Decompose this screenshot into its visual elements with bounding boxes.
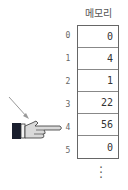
memory-cell: 4 [78, 48, 118, 70]
pointing-hand-icon [12, 120, 64, 142]
cell-index: 2 [64, 77, 72, 86]
cell-index: 5 [64, 146, 72, 155]
cell-index: 0 [64, 31, 72, 40]
memory-cell: 0 [78, 136, 118, 158]
cell-index: 3 [64, 100, 72, 109]
cell-index: 1 [64, 54, 72, 63]
memory-cell: 0 [78, 26, 118, 48]
continuation-dots: ··· [98, 165, 104, 180]
memory-table: 0 4 1 22 56 0 [77, 25, 119, 159]
memory-cell: 22 [78, 92, 118, 114]
cell-index: 4 [64, 123, 72, 132]
memory-cell: 1 [78, 70, 118, 92]
memory-title: 메모리 [77, 5, 119, 20]
memory-cell: 56 [78, 114, 118, 136]
arrow-icon [0, 0, 40, 125]
